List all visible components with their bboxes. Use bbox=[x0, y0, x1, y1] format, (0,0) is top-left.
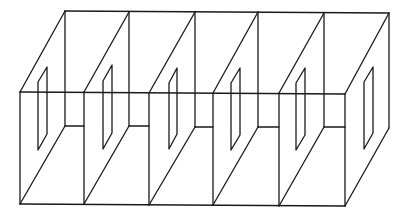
wall-4 bbox=[213, 12, 258, 205]
wall-2 bbox=[84, 12, 129, 204]
compartment-row-diagram bbox=[0, 0, 407, 223]
window-slot-5 bbox=[296, 68, 305, 150]
window-slot-4 bbox=[231, 68, 240, 150]
wall-6-end bbox=[345, 13, 389, 206]
back-top-edge bbox=[65, 11, 389, 13]
window-slot-1 bbox=[38, 67, 47, 150]
diagram-canvas bbox=[0, 0, 407, 223]
wall-3 bbox=[149, 12, 195, 205]
wall-1 bbox=[20, 11, 65, 204]
window-slot-2 bbox=[103, 65, 112, 149]
back-bottom-segments bbox=[65, 126, 345, 127]
wall-5 bbox=[279, 13, 324, 206]
window-slot-3 bbox=[169, 68, 177, 149]
window-slot-6 bbox=[364, 67, 373, 149]
front-bottom-edge bbox=[20, 204, 345, 206]
